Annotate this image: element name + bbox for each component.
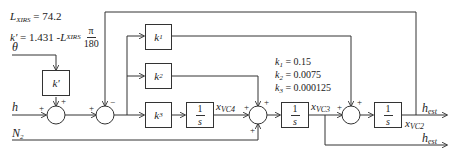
integrator-fraction: 1s (196, 104, 205, 127)
h-est-sub: est (428, 107, 437, 116)
pi-over-180: π 180 (84, 26, 99, 49)
integrator-num: 1 (384, 104, 393, 116)
integrator-den: s (198, 116, 202, 127)
sum3-left-sign: + (244, 103, 249, 112)
xvc4-sub: VC4 (221, 105, 235, 114)
sum2-left-sign: + (89, 104, 94, 113)
gain-k3-value: k3 = 0.000125 (275, 83, 331, 95)
block-k1: k1 (145, 24, 172, 50)
gain-sub: 3 (279, 87, 283, 95)
integrator-fraction: 1s (384, 104, 393, 127)
sum4-top-sign: + (357, 98, 362, 107)
input-theta: θ (12, 41, 18, 53)
gain-value: = 0.000125 (285, 82, 331, 93)
h-est-sub: est (428, 137, 437, 146)
gain-sub: 2 (279, 74, 283, 82)
gain-sub: 1 (279, 61, 283, 69)
n2-sub: 2 (20, 133, 24, 141)
l-subscript: XIRS (16, 16, 30, 24)
block-k2-sub: 2 (159, 72, 163, 80)
signal-xvc4: xVC4 (216, 101, 235, 114)
gain-k2-value: k2 = 0.0075 (275, 70, 321, 82)
integrator-num: 1 (291, 104, 300, 116)
n2-symbol: N (12, 126, 20, 140)
l-value: = 74.2 (33, 10, 61, 22)
signal-xvc3: xVC3 (311, 101, 330, 114)
block-integrator-3: 1s (374, 102, 402, 128)
block-k1-sub: 1 (159, 33, 163, 41)
sum1-top-sign: + (61, 97, 66, 106)
sum3-bottom-sign: + (250, 126, 255, 135)
sum3-top-sign: + (264, 98, 269, 107)
sum2-top-sign: − (110, 98, 115, 107)
output-h-est-2: hest (422, 132, 437, 146)
gain-value: = 0.15 (285, 56, 311, 67)
block-integrator-2: 1s (281, 102, 309, 128)
equation-k-prime: k' = 1.431 - LXIRS π 180 (10, 26, 99, 49)
xvc3-sub: VC3 (316, 105, 330, 114)
integrator-fraction: 1s (291, 104, 300, 127)
sum4-left-sign: + (337, 103, 342, 112)
frac-num: π (87, 26, 96, 38)
summing-junction-2 (96, 106, 114, 124)
summing-junction-4 (342, 106, 360, 124)
block-integrator-1: 1s (186, 102, 214, 128)
sum1-left-sign: + (39, 104, 44, 113)
k-prime-l-subscript: XIRS (66, 34, 80, 41)
k-prime-rhs: = 1.431 - (20, 32, 60, 43)
input-n2: N2 (12, 127, 24, 141)
integrator-num: 1 (196, 104, 205, 116)
gain-k1-value: k1 = 0.15 (275, 57, 311, 69)
summing-junction-3 (249, 106, 267, 124)
integrator-den: s (386, 116, 390, 127)
block-k-prime-label: k' (52, 77, 59, 89)
xvc2-sub: VC2 (410, 122, 424, 131)
frac-den: 180 (84, 38, 99, 49)
output-h-est-1: hest (422, 102, 437, 116)
gain-value: = 0.0075 (285, 69, 321, 80)
block-k2: k2 (145, 63, 172, 89)
input-h: h (12, 101, 18, 113)
signal-xvc2: xVC2 (405, 118, 424, 131)
integrator-den: s (293, 116, 297, 127)
summing-junction-1 (47, 106, 65, 124)
block-k-prime: k' (42, 70, 70, 96)
block-k3: k3 (145, 102, 172, 128)
equation-l-xirs: LXIRS = 74.2 (10, 11, 61, 24)
block-k3-sub: 3 (159, 111, 163, 119)
